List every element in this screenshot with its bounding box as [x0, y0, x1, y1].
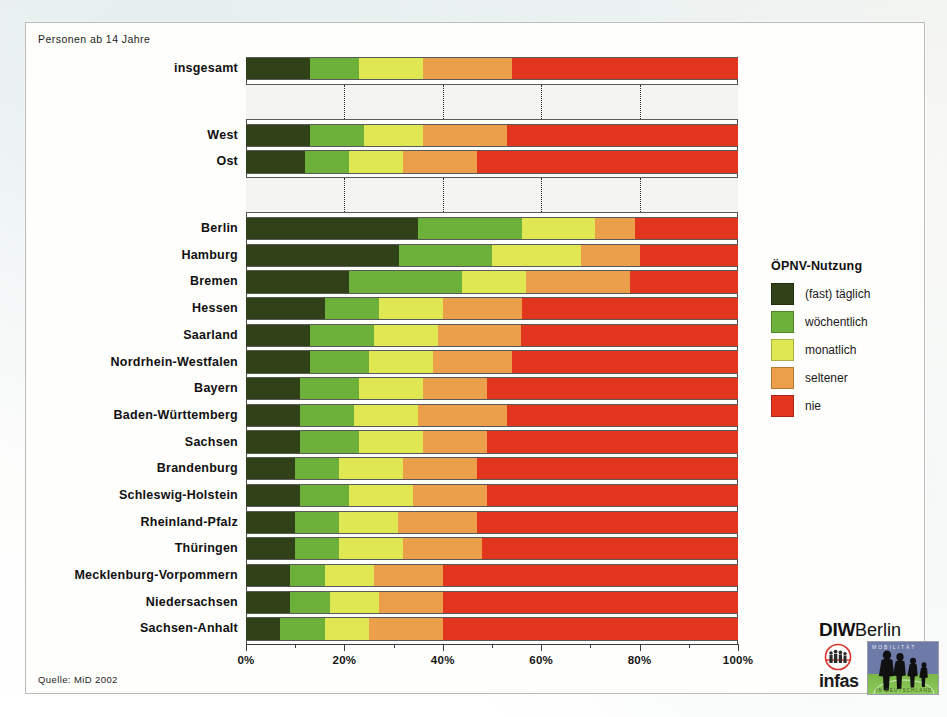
bar-row[interactable] [246, 430, 738, 453]
bar-segment[interactable] [512, 58, 738, 79]
bar-segment[interactable] [300, 485, 349, 506]
bar-segment[interactable] [522, 218, 596, 239]
bar-segment[interactable] [310, 58, 359, 79]
bar-segment[interactable] [443, 618, 738, 639]
bar-segment[interactable] [487, 485, 738, 506]
bar-segment[interactable] [246, 618, 280, 639]
bar-segment[interactable] [462, 271, 526, 292]
bar-segment[interactable] [290, 592, 329, 613]
bar-segment[interactable] [521, 325, 737, 346]
bar-segment[interactable] [246, 485, 300, 506]
bar-row[interactable] [246, 591, 738, 614]
bar-segment[interactable] [477, 512, 738, 533]
bar-segment[interactable] [403, 458, 477, 479]
bar-segment[interactable] [246, 431, 300, 452]
bar-segment[interactable] [246, 325, 310, 346]
bar-row[interactable] [246, 457, 738, 480]
bar-segment[interactable] [246, 271, 349, 292]
bar-segment[interactable] [399, 245, 492, 266]
bar-segment[interactable] [418, 405, 507, 426]
bar-row[interactable] [246, 244, 738, 267]
bar-row[interactable] [246, 484, 738, 507]
bar-segment[interactable] [359, 378, 423, 399]
bar-segment[interactable] [443, 298, 522, 319]
bar-segment[interactable] [522, 298, 738, 319]
bar-row[interactable] [246, 297, 738, 320]
bar-segment[interactable] [246, 512, 295, 533]
bar-segment[interactable] [339, 512, 398, 533]
bar-segment[interactable] [487, 378, 738, 399]
bar-row[interactable] [246, 404, 738, 427]
bar-segment[interactable] [246, 218, 418, 239]
legend-item[interactable]: (fast) täglich [771, 283, 911, 305]
bar-segment[interactable] [595, 218, 634, 239]
bar-segment[interactable] [295, 512, 339, 533]
bar-segment[interactable] [487, 431, 738, 452]
bar-row[interactable] [246, 377, 738, 400]
bar-segment[interactable] [246, 245, 399, 266]
bar-row[interactable] [246, 57, 738, 80]
bar-segment[interactable] [349, 271, 462, 292]
bar-segment[interactable] [433, 351, 512, 372]
bar-segment[interactable] [246, 378, 300, 399]
bar-segment[interactable] [438, 325, 522, 346]
bar-segment[interactable] [325, 298, 379, 319]
bar-segment[interactable] [246, 351, 310, 372]
bar-row[interactable] [246, 537, 738, 560]
bar-segment[interactable] [280, 618, 324, 639]
bar-segment[interactable] [339, 458, 403, 479]
bar-segment[interactable] [369, 351, 433, 372]
bar-segment[interactable] [325, 618, 369, 639]
bar-segment[interactable] [374, 565, 443, 586]
legend-item[interactable]: nie [771, 395, 911, 417]
bar-segment[interactable] [246, 458, 295, 479]
bar-segment[interactable] [364, 125, 423, 146]
bar-segment[interactable] [246, 405, 300, 426]
bar-row[interactable] [246, 617, 738, 640]
bar-segment[interactable] [300, 378, 359, 399]
bar-segment[interactable] [369, 618, 443, 639]
bar-segment[interactable] [359, 431, 423, 452]
bar-segment[interactable] [246, 151, 305, 172]
bar-row[interactable] [246, 324, 738, 347]
bar-segment[interactable] [310, 125, 364, 146]
bar-segment[interactable] [482, 538, 738, 559]
bar-segment[interactable] [477, 458, 738, 479]
bar-segment[interactable] [423, 58, 512, 79]
bar-segment[interactable] [300, 405, 354, 426]
bar-segment[interactable] [379, 592, 443, 613]
bar-segment[interactable] [403, 151, 477, 172]
bar-segment[interactable] [635, 218, 738, 239]
bar-segment[interactable] [443, 565, 738, 586]
bar-segment[interactable] [349, 485, 413, 506]
bar-row[interactable] [246, 511, 738, 534]
bar-segment[interactable] [443, 592, 738, 613]
bar-segment[interactable] [330, 592, 379, 613]
legend-item[interactable]: monatlich [771, 339, 911, 361]
bar-segment[interactable] [398, 512, 477, 533]
bar-segment[interactable] [295, 458, 339, 479]
bar-segment[interactable] [374, 325, 438, 346]
bar-segment[interactable] [423, 378, 487, 399]
bar-segment[interactable] [246, 125, 310, 146]
bar-segment[interactable] [512, 351, 738, 372]
bar-segment[interactable] [359, 58, 423, 79]
bar-segment[interactable] [246, 565, 290, 586]
bar-segment[interactable] [246, 538, 295, 559]
bar-segment[interactable] [581, 245, 640, 266]
bar-row[interactable] [246, 124, 738, 147]
bar-segment[interactable] [246, 298, 325, 319]
bar-segment[interactable] [526, 271, 629, 292]
bar-segment[interactable] [246, 58, 310, 79]
bar-segment[interactable] [310, 351, 369, 372]
bar-segment[interactable] [507, 405, 738, 426]
legend-item[interactable]: wöchentlich [771, 311, 911, 333]
legend-item[interactable]: seltener [771, 367, 911, 389]
bar-segment[interactable] [290, 565, 324, 586]
bar-segment[interactable] [354, 405, 418, 426]
bar-segment[interactable] [349, 151, 403, 172]
bar-segment[interactable] [413, 485, 487, 506]
bar-segment[interactable] [305, 151, 349, 172]
bar-segment[interactable] [310, 325, 374, 346]
bar-row[interactable] [246, 217, 738, 240]
